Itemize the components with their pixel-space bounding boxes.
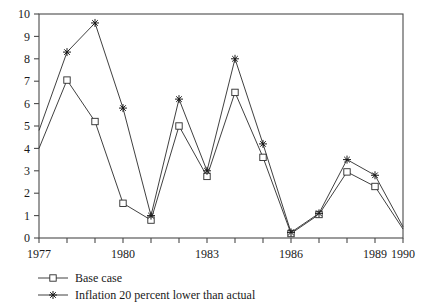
plot-frame xyxy=(39,14,403,238)
marker-square xyxy=(372,183,378,189)
y-tick-label: 2 xyxy=(24,186,30,200)
marker-square xyxy=(120,200,126,206)
marker-square xyxy=(232,89,238,95)
x-tick-label: 1983 xyxy=(195,247,219,261)
chart-container: 012345678910197719801983198619891990Base… xyxy=(0,0,432,308)
y-tick-label: 10 xyxy=(18,7,30,21)
marker-square xyxy=(260,154,266,160)
y-tick-label: 5 xyxy=(24,119,30,133)
marker-square xyxy=(64,77,70,83)
y-tick-label: 6 xyxy=(24,97,30,111)
marker-square xyxy=(50,275,56,281)
line-chart: 012345678910197719801983198619891990Base… xyxy=(0,0,432,308)
series-base-case xyxy=(39,77,403,237)
y-tick-label: 8 xyxy=(24,52,30,66)
legend-label: Base case xyxy=(75,271,122,285)
legend-item-inflation-lower[interactable]: Inflation 20 percent lower than actual xyxy=(38,288,256,302)
x-tick-label: 1986 xyxy=(279,247,303,261)
y-tick-label: 4 xyxy=(24,142,30,156)
series-polyline xyxy=(39,80,403,233)
x-tick-label: 1990 xyxy=(391,247,415,261)
legend-label: Inflation 20 percent lower than actual xyxy=(75,288,256,302)
marker-square xyxy=(92,118,98,124)
y-tick-label: 1 xyxy=(24,209,30,223)
y-tick-label: 7 xyxy=(24,74,30,88)
legend-item-base-case[interactable]: Base case xyxy=(38,271,122,285)
marker-square xyxy=(344,169,350,175)
x-tick-label: 1977 xyxy=(27,247,51,261)
y-tick-label: 9 xyxy=(24,30,30,44)
series-inflation-lower xyxy=(39,19,403,236)
y-tick-label: 3 xyxy=(24,164,30,178)
x-tick-label: 1989 xyxy=(363,247,387,261)
marker-square xyxy=(176,123,182,129)
series-polyline xyxy=(39,23,403,232)
x-tick-label: 1980 xyxy=(111,247,135,261)
y-tick-label: 0 xyxy=(24,231,30,245)
